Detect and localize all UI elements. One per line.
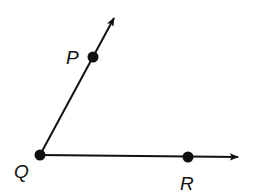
label-p: P (66, 47, 79, 68)
ray-qr (40, 155, 238, 157)
point-p (88, 52, 99, 63)
point-q (35, 150, 46, 161)
ray-qp (40, 18, 114, 155)
angle-diagram: P Q R (0, 0, 265, 195)
point-r (183, 152, 194, 163)
label-q: Q (14, 161, 29, 182)
label-r: R (180, 173, 194, 194)
diagram-svg: P Q R (0, 0, 265, 195)
